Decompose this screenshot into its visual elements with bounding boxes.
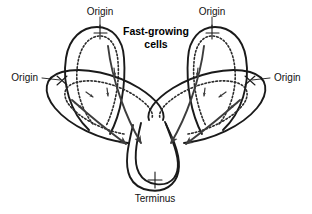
bubble-top-left <box>65 17 124 134</box>
bubble-left <box>42 70 164 143</box>
replication-diagram-svg: Origin Origin Origin Origin Terminus Fas… <box>0 0 312 214</box>
terminus-tick <box>148 172 162 188</box>
converging-arrows <box>72 46 240 144</box>
bubble-top-right <box>188 17 247 134</box>
terminus-inner-strand <box>136 123 178 184</box>
terminus-label: Terminus <box>135 193 176 204</box>
converge-arrow-1 <box>72 100 126 144</box>
left-outer-strand <box>47 70 164 143</box>
origin-label-left: Origin <box>11 72 38 83</box>
right-fork-arrow-a <box>219 92 226 97</box>
left-fork-arrow-a <box>86 92 93 97</box>
figure-title-line2: cells <box>144 38 168 50</box>
bubble-right <box>148 70 270 143</box>
converge-arrow-4 <box>186 100 240 144</box>
origin-label-right: Origin <box>274 72 301 83</box>
right-outer-strand <box>148 70 265 143</box>
figure-title-line1: Fast-growing <box>123 25 189 37</box>
diagram-root: Origin Origin Origin Origin Terminus Fas… <box>0 0 312 214</box>
top-right-fork-arrow-b <box>204 88 205 96</box>
top-left-fork-arrow-b <box>107 88 108 96</box>
origin-label-top-right: Origin <box>199 6 226 17</box>
origin-label-top-left: Origin <box>87 6 114 17</box>
